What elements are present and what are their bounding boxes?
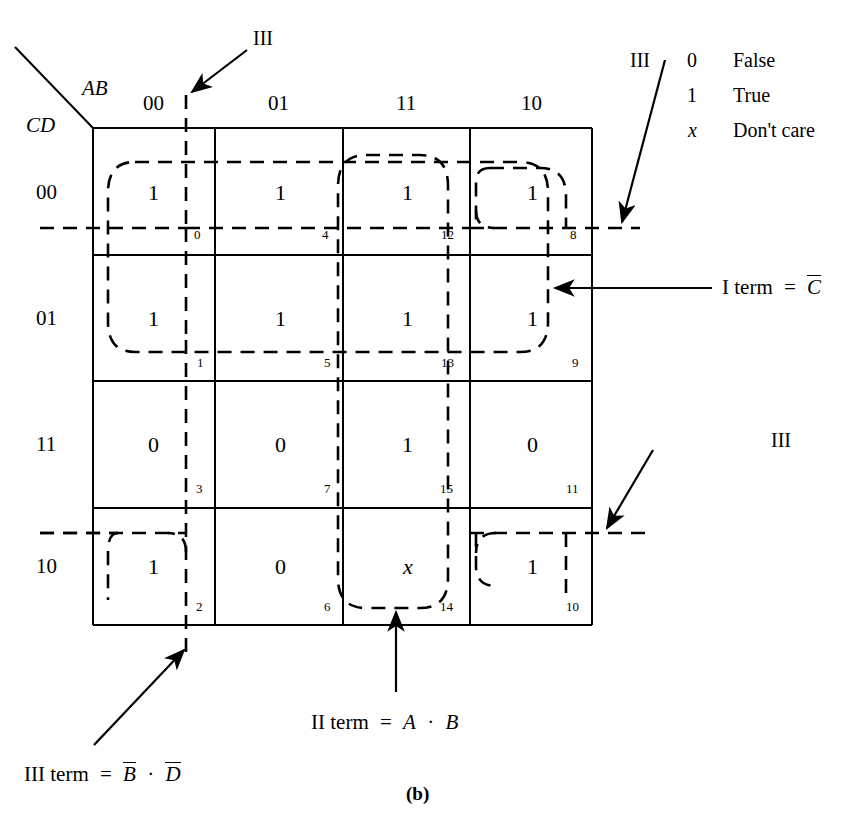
annotation-III-term-equals: =	[94, 762, 118, 786]
cell-minterm-13: 13	[441, 356, 454, 369]
cell-value-r11-c00: 0	[148, 434, 159, 456]
annotation-II-term-var-a: A	[403, 710, 416, 734]
legend-meaning-false: False	[733, 50, 775, 70]
cell-value-r10-c11: x	[403, 556, 413, 578]
legend-meaning-true: True	[733, 85, 770, 105]
cell-value-r01-c00: 1	[148, 308, 159, 330]
legend-group-label: III	[630, 50, 650, 70]
arrow-III-lower-right	[607, 450, 653, 528]
axis-label-AB: AB	[82, 78, 108, 99]
cell-value-r11-c10: 0	[527, 434, 538, 456]
row-header-01: 01	[36, 308, 57, 329]
annotation-III-term: III term = B · D	[24, 762, 181, 785]
axis-label-CD: CD	[26, 115, 55, 136]
cell-value-r01-c11: 1	[402, 308, 413, 330]
pointer-label-III-lower-right: III	[771, 430, 791, 450]
kmap-graphics	[0, 0, 843, 818]
cell-minterm-4: 4	[322, 228, 329, 241]
kmap-grid	[93, 128, 592, 625]
annotation-III-term-dot: ·	[141, 762, 160, 786]
annotation-II-term-equals: =	[374, 710, 398, 734]
cell-value-r11-c11: 1	[402, 434, 413, 456]
arrow-III-top	[192, 50, 247, 92]
annotation-II-term-var-b: B	[445, 710, 458, 734]
row-header-11: 11	[36, 434, 56, 455]
cell-value-r01-c10: 1	[527, 308, 538, 330]
cell-value-r10-c10: 1	[527, 556, 538, 578]
cell-minterm-2: 2	[196, 600, 203, 613]
pointer-label-III-top: III	[253, 28, 273, 48]
cell-minterm-10: 10	[566, 600, 579, 613]
column-header-01: 01	[268, 93, 289, 114]
group-I-term-outline	[108, 162, 548, 352]
cell-minterm-1: 1	[197, 356, 204, 369]
annotation-I-term-prefix: I term	[722, 275, 773, 299]
cell-value-r10-c00: 1	[148, 556, 159, 578]
cell-minterm-12: 12	[441, 228, 454, 241]
figure-caption: (b)	[406, 784, 429, 803]
arrow-III-upper-right	[622, 60, 665, 222]
column-header-00: 00	[143, 93, 164, 114]
cell-minterm-0: 0	[194, 228, 201, 241]
legend-symbol-1: 1	[687, 85, 697, 105]
kmap-figure: AB CD 00 01 11 10 00 01 11 10 1 1 1 1 0 …	[0, 0, 843, 818]
cell-value-r10-c01: 0	[275, 556, 286, 578]
cell-minterm-6: 6	[324, 600, 331, 613]
column-header-10: 10	[521, 93, 542, 114]
annotation-I-term-var: C	[807, 275, 821, 298]
arrow-III-term	[94, 650, 184, 745]
annotation-III-term-var-b: D	[165, 762, 180, 785]
cell-minterm-3: 3	[196, 482, 203, 495]
cell-minterm-9: 9	[572, 356, 579, 369]
cell-minterm-7: 7	[324, 482, 331, 495]
cell-value-r00-c10: 1	[527, 182, 538, 204]
cell-value-r00-c01: 1	[275, 182, 286, 204]
cell-minterm-15: 15	[440, 482, 453, 495]
row-header-10: 10	[36, 556, 57, 577]
cell-value-r11-c01: 0	[275, 434, 286, 456]
column-header-11: 11	[396, 93, 416, 114]
cell-value-r00-c11: 1	[402, 182, 413, 204]
legend-symbol-0: 0	[687, 50, 697, 70]
annotation-II-term-prefix: II term	[311, 710, 369, 734]
cell-value-r01-c01: 1	[275, 308, 286, 330]
row-header-00: 00	[36, 182, 57, 203]
cell-minterm-5: 5	[324, 356, 331, 369]
legend-meaning-dontcare: Don't care	[733, 120, 815, 140]
legend-symbol-x: x	[688, 120, 697, 140]
annotation-III-term-var-a: B	[123, 762, 136, 785]
cell-minterm-14: 14	[440, 600, 453, 613]
annotation-III-term-prefix: III term	[24, 762, 89, 786]
cell-value-r00-c00: 1	[148, 182, 159, 204]
annotation-I-term: I term = C	[722, 275, 821, 298]
cell-minterm-8: 8	[570, 228, 577, 241]
annotation-I-term-equals: =	[778, 275, 802, 299]
annotation-II-term-dot: ·	[421, 710, 440, 734]
cell-minterm-11: 11	[566, 482, 579, 495]
annotation-II-term: II term = A · B	[311, 712, 458, 733]
